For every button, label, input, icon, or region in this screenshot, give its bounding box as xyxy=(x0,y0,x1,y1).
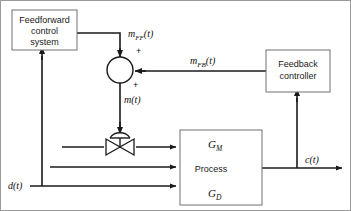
wire-feedforward-to-sum xyxy=(77,33,120,50)
sum-plus-top: + xyxy=(136,46,141,56)
sum-plus-right: + xyxy=(133,80,138,90)
valve-actuator-dome xyxy=(110,133,130,138)
summing-junction[interactable] xyxy=(107,57,133,83)
valve-body-right xyxy=(120,139,134,155)
feedforward-label-line3: system xyxy=(30,37,59,47)
feedforward-label-line2: control xyxy=(31,26,58,36)
feedforward-label-line1: Feedforward xyxy=(19,15,70,25)
signal-label-m-ff: mFF(t) xyxy=(128,28,154,42)
signal-label-c: c(t) xyxy=(305,154,320,166)
control-valve-symbol[interactable] xyxy=(106,133,134,155)
signal-label-m: m(t) xyxy=(124,94,141,106)
block-diagram-canvas: Feedforward control system Feedback cont… xyxy=(0,0,351,211)
diagram-svg: Feedforward control system Feedback cont… xyxy=(0,0,351,211)
signal-label-m-fb: mFB(t) xyxy=(190,55,216,69)
feedback-label-line1: Feedback xyxy=(278,59,318,69)
valve-body-left xyxy=(106,139,120,155)
process-label: Process xyxy=(195,164,228,174)
feedback-label-line2: controller xyxy=(279,71,316,81)
signal-label-d: d(t) xyxy=(8,180,23,192)
